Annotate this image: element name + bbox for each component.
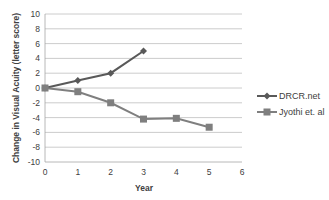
x-tick-label: 6 xyxy=(240,167,245,177)
series-line xyxy=(45,51,144,88)
legend-label: Jyothi et. al xyxy=(279,107,325,117)
series-drcr-net xyxy=(42,48,148,92)
diamond-marker xyxy=(264,93,271,100)
square-marker xyxy=(264,109,271,116)
y-tick-label: -8 xyxy=(32,142,40,152)
square-marker xyxy=(140,116,147,123)
x-axis-ticks: 0123456 xyxy=(43,167,245,177)
legend-label: DRCR.net xyxy=(279,91,321,101)
y-tick-label: -2 xyxy=(32,98,40,108)
y-tick-label: -10 xyxy=(28,157,41,167)
x-tick-label: 5 xyxy=(207,167,212,177)
y-tick-label: 2 xyxy=(35,68,40,78)
legend-item: Jyothi et. al xyxy=(257,107,325,117)
x-axis-title: Year xyxy=(135,183,154,193)
y-axis-title: Change in Visual Acuity (letter score) xyxy=(11,13,21,163)
x-tick-label: 1 xyxy=(75,167,80,177)
diamond-marker xyxy=(74,77,81,84)
x-tick-label: 3 xyxy=(141,167,146,177)
y-tick-label: 10 xyxy=(31,9,41,19)
square-marker xyxy=(107,99,114,106)
y-tick-label: 8 xyxy=(35,24,40,34)
y-tick-label: 6 xyxy=(35,39,40,49)
y-tick-label: -6 xyxy=(32,127,40,137)
x-tick-label: 2 xyxy=(108,167,113,177)
legend-item: DRCR.net xyxy=(257,91,321,101)
series-line xyxy=(45,88,209,127)
legend: DRCR.netJyothi et. al xyxy=(257,91,325,117)
square-marker xyxy=(173,115,180,122)
y-tick-label: 0 xyxy=(35,83,40,93)
x-tick-label: 0 xyxy=(43,167,48,177)
square-marker xyxy=(42,85,49,92)
y-tick-label: -4 xyxy=(32,113,40,123)
y-tick-label: 4 xyxy=(35,53,40,63)
square-marker xyxy=(74,88,81,95)
x-tick-label: 4 xyxy=(174,167,179,177)
y-axis-ticks: 1086420-2-4-6-8-10 xyxy=(28,9,41,167)
series-jyothi-et-al xyxy=(42,85,213,131)
data-series xyxy=(42,48,213,131)
line-chart: 1086420-2-4-6-8-10 0123456 Change in Vis… xyxy=(0,0,329,200)
square-marker xyxy=(206,124,213,131)
